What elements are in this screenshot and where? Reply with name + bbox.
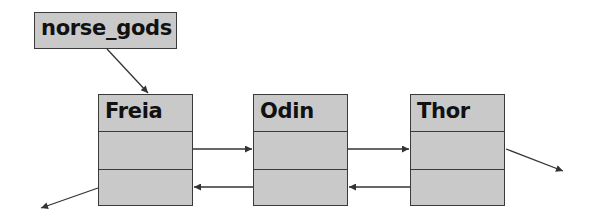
- node-next-pointer-cell: [411, 132, 504, 170]
- node-prev-pointer-cell: [99, 170, 192, 205]
- freia-prev-null-arrow-icon: [41, 188, 98, 208]
- node-thor: Thor: [410, 94, 505, 206]
- node-freia: Freia: [98, 94, 193, 206]
- node-name-cell: Freia: [99, 95, 192, 132]
- node-name-cell: Odin: [254, 95, 347, 132]
- thor-next-null-arrow-icon: [506, 149, 563, 171]
- node-label: Odin: [260, 99, 314, 123]
- node-prev-pointer-cell: [254, 170, 347, 205]
- linked-list-diagram: norse_gods Freia Odin Thor: [0, 0, 589, 223]
- node-label: Thor: [417, 99, 470, 123]
- node-odin: Odin: [253, 94, 348, 206]
- node-next-pointer-cell: [254, 132, 347, 170]
- node-name-cell: Thor: [411, 95, 504, 132]
- node-next-pointer-cell: [99, 132, 192, 170]
- head-pointer-box: norse_gods: [34, 12, 177, 49]
- node-prev-pointer-cell: [411, 170, 504, 205]
- node-label: Freia: [105, 99, 162, 123]
- head-to-freia-arrow-icon: [107, 49, 148, 93]
- head-pointer-label: norse_gods: [41, 16, 172, 40]
